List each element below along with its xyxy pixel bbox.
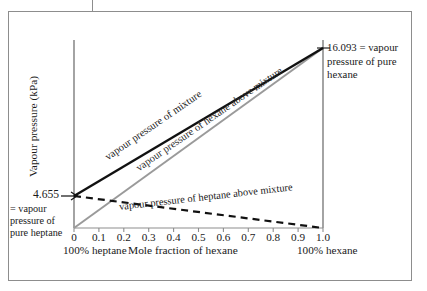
x-tick-label: 1.0 bbox=[310, 231, 336, 243]
x-axis-right-note: 100% hexane bbox=[297, 244, 358, 257]
x-axis-title: Mole fraction of hexane bbox=[128, 244, 238, 257]
x-tick-label: 0.1 bbox=[86, 231, 112, 243]
x-tick-label: 0.5 bbox=[186, 231, 212, 243]
annotation-right-note: 16.093 = vapour pressure of pure hexane bbox=[327, 41, 413, 82]
y-axis-title: Vapour pressure (kPa) bbox=[27, 47, 40, 207]
x-tick-label: 0.9 bbox=[285, 231, 311, 243]
x-tick-label: 0.4 bbox=[161, 231, 187, 243]
annotation-left-value: 4.655 bbox=[33, 188, 59, 201]
x-tick-label: 0.8 bbox=[260, 231, 286, 243]
x-tick-label: 0.6 bbox=[210, 231, 236, 243]
x-tick-label: 0.2 bbox=[111, 231, 137, 243]
x-tick-label: 0.3 bbox=[136, 231, 162, 243]
annotation-left-note: = vapour pressure of pure heptane bbox=[10, 203, 68, 238]
x-axis-left-note: 100% heptane bbox=[63, 244, 127, 257]
figure-stage: Vapour pressure (kPa) Mole fraction of h… bbox=[0, 0, 427, 291]
x-tick-label: 0.7 bbox=[235, 231, 261, 243]
